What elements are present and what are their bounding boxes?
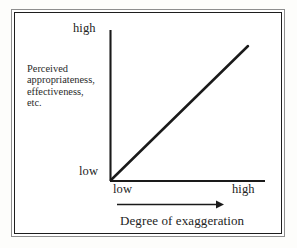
chart-plot-area: [0, 0, 297, 248]
y-axis-description-line-3: effectiveness,: [27, 86, 113, 97]
y-axis-description-line-2: appropriateness,: [27, 74, 113, 85]
data-series-line: [111, 46, 248, 180]
y-axis-low-label: low: [79, 165, 98, 178]
y-axis-description-line-4: etc.: [27, 97, 113, 108]
figure-root: high low low high Perceived appropriaten…: [0, 0, 297, 248]
y-axis-description-line-1: Perceived: [27, 63, 113, 74]
x-axis-low-label: low: [113, 183, 132, 196]
y-axis-description: Perceived appropriateness, effectiveness…: [27, 63, 113, 109]
x-axis-caption: Degree of exaggeration: [120, 214, 244, 227]
right-arrow-icon: [117, 201, 224, 209]
y-axis-high-label: high: [73, 22, 96, 35]
x-axis-high-label: high: [232, 183, 255, 196]
